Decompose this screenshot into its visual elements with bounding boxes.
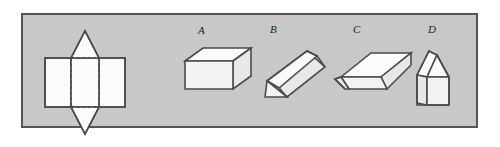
option-d-label: D — [428, 24, 436, 35]
figure-frame: A B C — [21, 13, 478, 128]
figure-page: A B C — [0, 0, 500, 147]
option-b-label: B — [270, 24, 277, 35]
option-c-label: C — [353, 24, 361, 35]
option-d-pentagonal-prism — [405, 41, 475, 111]
net-of-solid — [31, 23, 141, 123]
option-b-triangular-prism — [245, 41, 335, 105]
option-a-label: A — [198, 25, 205, 36]
